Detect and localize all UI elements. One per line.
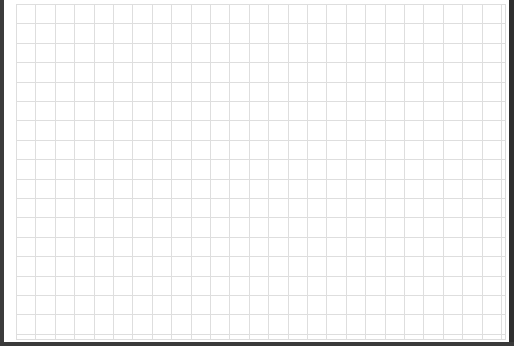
window-border-bottom bbox=[0, 342, 514, 346]
grid-vertical-line bbox=[94, 4, 95, 339]
grid-vertical-line bbox=[365, 4, 366, 339]
grid-vertical-line bbox=[16, 4, 17, 339]
grid-vertical-line bbox=[113, 4, 114, 339]
grid-vertical-line bbox=[501, 4, 502, 339]
grid-vertical-line bbox=[229, 4, 230, 339]
grid-window bbox=[0, 0, 514, 346]
grid-horizontal-line bbox=[16, 314, 505, 315]
grid-vertical-line bbox=[55, 4, 56, 339]
grid-horizontal-line bbox=[16, 4, 505, 5]
grid-vertical-line bbox=[385, 4, 386, 339]
grid-vertical-line bbox=[191, 4, 192, 339]
grid-vertical-line bbox=[152, 4, 153, 339]
grid-vertical-line bbox=[288, 4, 289, 339]
grid-vertical-line bbox=[249, 4, 250, 339]
grid-vertical-line bbox=[132, 4, 133, 339]
grid-horizontal-line bbox=[16, 101, 505, 102]
grid-vertical-line bbox=[423, 4, 424, 339]
grid-vertical-line bbox=[268, 4, 269, 339]
grid-horizontal-line bbox=[16, 159, 505, 160]
grid-horizontal-line bbox=[16, 198, 505, 199]
grid-lines bbox=[16, 4, 506, 340]
grid-horizontal-line bbox=[16, 82, 505, 83]
grid-vertical-line bbox=[171, 4, 172, 339]
grid-vertical-line bbox=[74, 4, 75, 339]
window-border-right bbox=[509, 0, 514, 346]
grid-vertical-line bbox=[346, 4, 347, 339]
grid-vertical-line bbox=[326, 4, 327, 339]
grid-horizontal-line bbox=[16, 23, 505, 24]
grid-horizontal-line bbox=[16, 62, 505, 63]
grid-vertical-line bbox=[482, 4, 483, 339]
grid-vertical-line bbox=[462, 4, 463, 339]
grid-horizontal-line bbox=[16, 276, 505, 277]
grid-horizontal-line bbox=[16, 295, 505, 296]
grid-vertical-line bbox=[443, 4, 444, 339]
grid-horizontal-line bbox=[16, 256, 505, 257]
grid-horizontal-line bbox=[16, 140, 505, 141]
grid-horizontal-line bbox=[16, 43, 505, 44]
grid-vertical-line bbox=[404, 4, 405, 339]
grid-vertical-line bbox=[307, 4, 308, 339]
grid-vertical-line bbox=[210, 4, 211, 339]
grid-canvas[interactable] bbox=[4, 0, 509, 342]
grid-horizontal-line bbox=[16, 334, 505, 335]
grid-horizontal-line bbox=[16, 179, 505, 180]
grid-vertical-line bbox=[35, 4, 36, 339]
grid-horizontal-line bbox=[16, 217, 505, 218]
grid-horizontal-line bbox=[16, 120, 505, 121]
grid-horizontal-line bbox=[16, 237, 505, 238]
